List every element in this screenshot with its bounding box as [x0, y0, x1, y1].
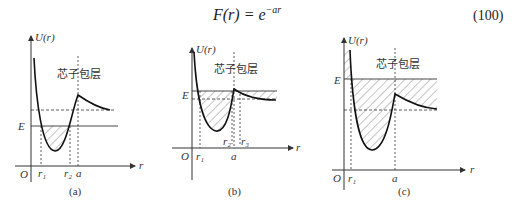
figure-caption: (b) — [228, 185, 241, 198]
origin-label: O — [20, 168, 28, 180]
potential-diagrams: U(r) r O E 芯子包层 r₁ r₂ a (a) U(r) r O E 芯… — [0, 0, 519, 211]
origin-label: O — [181, 150, 189, 162]
tick-a: a — [76, 167, 82, 179]
tick-r1: r₁ — [348, 172, 356, 184]
y-axis-label: U(r) — [196, 43, 216, 56]
origin-label: O — [333, 172, 341, 184]
tick-r2: r₂ — [64, 167, 72, 179]
figure-b: U(r) r O E 芯子包层 r₁ r₂ a r₃ (b) — [172, 43, 301, 198]
energy-label: E — [181, 89, 189, 101]
tick-r3: r₃ — [241, 135, 249, 147]
x-axis-label: r — [139, 159, 144, 171]
figure-caption: (a) — [69, 185, 82, 198]
x-axis-label: r — [296, 141, 301, 153]
tick-r1: r₁ — [196, 150, 204, 162]
figure-c: U(r) r O E 芯子包层 r₁ a (c) — [332, 34, 475, 198]
region-label: 芯子包层 — [214, 62, 258, 76]
tick-a: a — [231, 150, 237, 162]
figure-caption: (c) — [398, 185, 411, 198]
energy-label: E — [17, 120, 25, 132]
tick-r1: r₁ — [38, 167, 46, 179]
y-axis-label: U(r) — [35, 31, 55, 44]
tick-r2: r₂ — [223, 135, 231, 147]
region-label: 芯子包层 — [57, 67, 101, 81]
y-axis-label: U(r) — [348, 34, 368, 47]
energy-label: E — [333, 74, 341, 86]
figure-a: U(r) r O E 芯子包层 r₁ r₂ a (a) — [15, 31, 144, 198]
region-label: 芯子包层 — [376, 57, 420, 71]
x-axis-label: r — [470, 163, 475, 175]
tick-a: a — [392, 172, 398, 184]
